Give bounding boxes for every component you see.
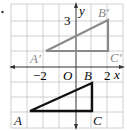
vertex-label-b-prime: B′: [98, 5, 109, 20]
tick-label-y-pos3: 3: [64, 13, 71, 28]
y-axis-label: y: [77, 3, 85, 18]
y-axis-down-arrow-icon: [74, 124, 78, 130]
tick-label-x-pos2: 2: [104, 68, 111, 83]
coordinate-plane: y x O −2 2 3 A′ B′ C′ A B C: [0, 0, 127, 131]
bullet-dot: [1, 11, 3, 13]
tick-label-x-neg2: −2: [33, 68, 47, 83]
origin-label: O: [63, 68, 73, 83]
vertex-label-a: A: [13, 113, 22, 128]
vertex-label-c: C: [93, 113, 102, 128]
vertex-label-a-prime: A′: [29, 51, 41, 66]
vertex-label-b: B: [84, 68, 92, 83]
x-axis-left-arrow-icon: [9, 65, 15, 69]
triangle-image: [46, 20, 108, 51]
y-axis-up-arrow-icon: [74, 2, 78, 8]
x-axis-right-arrow-icon: [119, 65, 125, 69]
vertex-label-c-prime: C′: [110, 50, 122, 65]
x-axis-label: x: [113, 67, 120, 82]
